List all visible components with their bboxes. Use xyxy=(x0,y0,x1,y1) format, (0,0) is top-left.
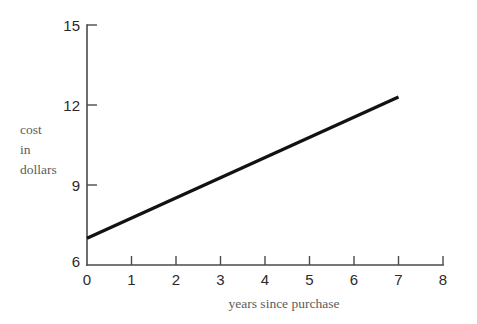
x-tick-label-6: 6 xyxy=(350,271,358,288)
y-tick-label-6: 6 xyxy=(72,253,80,270)
x-tick-label-7: 7 xyxy=(394,271,402,288)
x-tick-label-3: 3 xyxy=(216,271,224,288)
y-tick-label-15: 15 xyxy=(63,17,80,34)
x-tick-label-8: 8 xyxy=(439,271,447,288)
y-axis-title-line-3: dollars xyxy=(20,162,57,177)
y-tick-label-12: 12 xyxy=(63,97,80,114)
y-axis-title-line-2: in xyxy=(20,142,31,157)
x-tick-label-0: 0 xyxy=(83,271,91,288)
x-tick-label-2: 2 xyxy=(172,271,180,288)
x-tick-label-1: 1 xyxy=(127,271,135,288)
x-tick-label-5: 5 xyxy=(305,271,313,288)
x-tick-label-4: 4 xyxy=(261,271,269,288)
x-axis-title: years since purchase xyxy=(229,296,340,311)
y-axis-title-line-1: cost xyxy=(20,122,42,137)
chart-page: 15 12 9 6 0 1 2 3 4 5 6 7 8 cost in doll… xyxy=(0,0,477,324)
series-line-cost xyxy=(87,97,399,238)
line-chart: 15 12 9 6 0 1 2 3 4 5 6 7 8 cost in doll… xyxy=(0,0,477,324)
y-tick-label-9: 9 xyxy=(72,177,80,194)
